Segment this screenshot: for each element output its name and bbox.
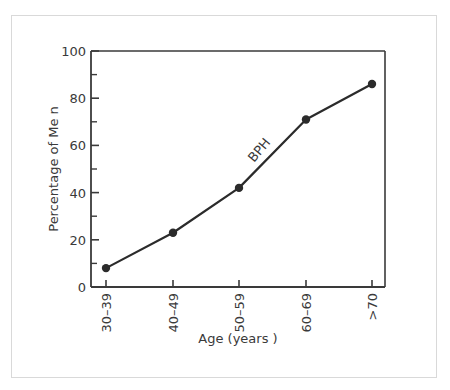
x-tick-label: 50–59 (232, 293, 247, 333)
y-axis-title: Percentage of Me n (46, 106, 61, 232)
y-tick-label: 100 (61, 44, 86, 59)
data-point (302, 115, 310, 123)
y-tick-label: 20 (69, 233, 86, 248)
y-tick-label: 40 (69, 186, 86, 201)
annotation-bph: BPH (245, 135, 274, 165)
x-tick-label: >70 (365, 293, 380, 320)
x-axis-title: Age (years ) (198, 331, 277, 346)
y-tick-label: 80 (69, 91, 86, 106)
y-tick-label: 0 (78, 280, 86, 295)
series-line-bph (106, 84, 372, 268)
data-point (235, 184, 243, 192)
data-point (368, 80, 376, 88)
y-axis-ticks: 020406080100 (61, 44, 99, 295)
x-tick-label: 60–69 (299, 293, 314, 333)
y-tick-label: 60 (69, 138, 86, 153)
data-point (102, 264, 110, 272)
x-tick-label: 40–49 (166, 293, 181, 333)
series-markers (102, 80, 376, 272)
chart-svg: 020406080100 30–3940–4950–5960–69>70 BPH… (0, 0, 450, 390)
x-tick-label: 30–39 (99, 293, 114, 333)
data-point (169, 229, 177, 237)
